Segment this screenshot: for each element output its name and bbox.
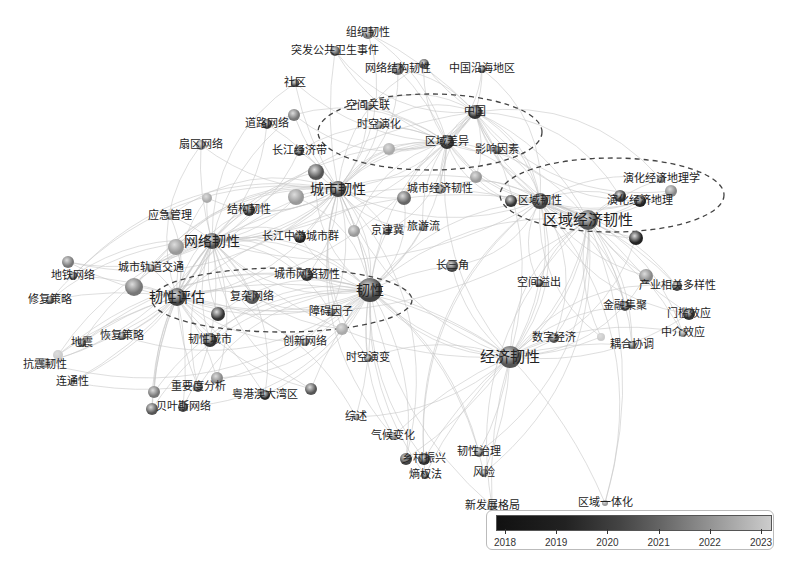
- node-label: 复杂网络: [230, 291, 274, 303]
- network-node: [383, 143, 395, 155]
- network-node: [125, 278, 143, 296]
- year-label: 2019: [545, 537, 567, 548]
- node-label: 演化经济地理学: [623, 173, 700, 185]
- node-label: 中介效应: [661, 327, 705, 339]
- node-label: 道路网络: [245, 118, 289, 130]
- node-label: 修复策略: [28, 294, 72, 306]
- node-label: 时空演化: [357, 119, 401, 131]
- node-label: 网络结构韧性: [365, 63, 431, 75]
- node-label: 京津冀: [371, 225, 404, 237]
- node-label: 城市韧性: [310, 181, 366, 197]
- year-tick: [659, 529, 660, 534]
- year-tick: [556, 529, 557, 534]
- node-label: 空间关联: [346, 100, 390, 112]
- network-node: [62, 256, 74, 268]
- network-node: [288, 189, 304, 205]
- node-label: 门槛效应: [667, 308, 711, 320]
- node-label: 贝叶斯网络: [156, 401, 211, 413]
- node-label: 地铁网络: [51, 270, 95, 282]
- node-label: 经济韧性: [480, 349, 540, 366]
- node-label: 扇区网络: [179, 139, 223, 151]
- year-tick: [505, 529, 506, 534]
- year-label: 2020: [596, 537, 618, 548]
- node-label: 空间溢出: [517, 277, 561, 289]
- node-label: 产业相关多样性: [639, 280, 716, 292]
- node-label: 障碍因子: [309, 306, 353, 318]
- network-node: [505, 195, 517, 207]
- year-gradient-bar: [496, 515, 772, 531]
- network-node: [629, 231, 643, 245]
- network-node: [148, 386, 160, 398]
- node-label: 区域韧性: [518, 195, 562, 207]
- node-label: 城市网络韧性: [274, 269, 340, 281]
- node-label: 社区: [284, 77, 306, 89]
- node-label: 地震: [71, 337, 93, 349]
- node-label: 乡村振兴: [402, 453, 446, 465]
- network-node: [305, 383, 317, 395]
- year-label: 2022: [699, 537, 721, 548]
- node-label: 金融集聚: [603, 300, 647, 312]
- node-label: 风险: [473, 467, 495, 479]
- node-label: 韧性治理: [457, 446, 501, 458]
- node-label: 韧性评估: [149, 289, 205, 305]
- year-label: 2023: [750, 537, 772, 548]
- node-label: 区域差异: [425, 136, 469, 148]
- node-label: 创新网络: [283, 336, 327, 348]
- node-label: 数字经济: [532, 332, 576, 344]
- network-node: [168, 239, 184, 255]
- year-label: 2018: [494, 537, 516, 548]
- network-node: [348, 225, 360, 237]
- node-label: 组织韧性: [346, 27, 390, 39]
- network-node: [288, 109, 300, 121]
- node-label: 韧性城市: [188, 334, 232, 346]
- node-label: 中国: [464, 106, 486, 118]
- node-label: 抗震韧性: [23, 359, 67, 371]
- node-label: 城市经济韧性: [407, 183, 473, 195]
- node-label: 气候变化: [371, 430, 415, 442]
- network-node: [308, 164, 324, 180]
- node-label: 中国沿海地区: [449, 63, 515, 75]
- node-label: 长江经济带: [272, 145, 327, 157]
- node-label: 城市轨道交通: [118, 262, 184, 274]
- year-tick: [710, 529, 711, 534]
- year-tick: [607, 529, 608, 534]
- node-label: 网络韧性: [184, 233, 240, 249]
- node-label: 结构韧性: [227, 204, 271, 216]
- network-node: [202, 193, 212, 203]
- node-label: 旅游流: [407, 221, 440, 233]
- network-node: [336, 323, 348, 335]
- node-label: 耦合协调: [610, 339, 654, 351]
- network-node: [211, 307, 225, 321]
- node-label: 长江中游城市群: [262, 231, 339, 243]
- node-label: 影响因素: [475, 144, 519, 156]
- node-label: 演化经济地理: [607, 195, 673, 207]
- node-label: 区域经济韧性: [543, 212, 633, 229]
- year-tick: [761, 529, 762, 534]
- node-label: 连通性: [56, 376, 89, 388]
- node-label: 恢复策略: [100, 330, 144, 342]
- node-label: 区域一体化: [578, 497, 633, 509]
- node-label: 综述: [345, 411, 367, 423]
- node-label: 应急管理: [148, 210, 192, 222]
- network-node: [597, 333, 605, 341]
- node-label: 熵权法: [409, 469, 442, 481]
- year-label: 2021: [647, 537, 669, 548]
- node-label: 突发公共卫生事件: [291, 45, 379, 57]
- node-label: 重要度分析: [171, 381, 226, 393]
- node-label: 韧性: [356, 282, 384, 298]
- node-label: 长三角: [436, 260, 469, 272]
- node-label: 时空演变: [346, 352, 390, 364]
- node-label: 粤港澳大湾区: [232, 389, 298, 401]
- year-legend: 201820192020202120222023: [486, 510, 774, 550]
